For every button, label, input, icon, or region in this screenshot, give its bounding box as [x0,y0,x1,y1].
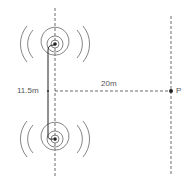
point-p-dot [169,89,173,93]
midpoint-tick [47,90,49,92]
separation-label: 11.5m [17,86,39,95]
lower-source-dot [53,137,57,141]
separation-bracket [48,45,54,139]
distance-label: 20m [101,79,117,88]
point-p-label: P [176,86,181,95]
